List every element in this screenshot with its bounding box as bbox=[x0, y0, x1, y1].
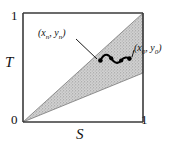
trajectory-marker bbox=[127, 56, 132, 61]
y-axis-label: T bbox=[5, 55, 13, 70]
leader-line-xn bbox=[76, 39, 97, 59]
annotation-label-x0: (x0, y0) bbox=[134, 43, 162, 56]
paren-close: ) bbox=[158, 42, 161, 53]
trajectory-marker bbox=[98, 58, 103, 63]
x-axis-label: S bbox=[76, 127, 84, 142]
figure-unit-square-cone: 1 0 1 T S (xn, yn) (x0, y0) bbox=[0, 0, 178, 148]
trajectory-marker bbox=[119, 58, 123, 62]
plot-canvas bbox=[0, 0, 178, 148]
annotation-label-xn: (xn, yn) bbox=[38, 28, 66, 41]
x-axis-tick-right: 1 bbox=[141, 113, 148, 126]
origin-tick: 0 bbox=[11, 113, 18, 126]
trajectory-marker bbox=[109, 56, 113, 60]
y-axis-tick-top: 1 bbox=[11, 9, 18, 22]
paren-close: ) bbox=[62, 27, 65, 38]
